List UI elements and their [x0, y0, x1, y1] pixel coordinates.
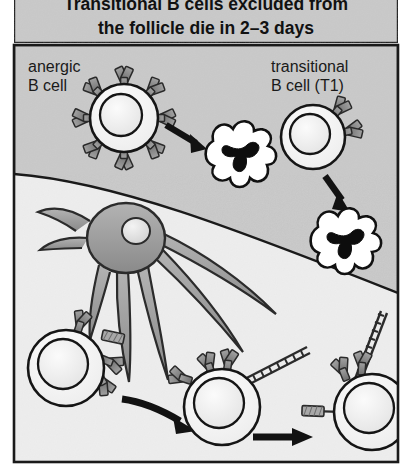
title-band: Transitional B cells excluded from the f… — [14, 0, 398, 43]
label-transitional-line-2: B cell (T1) — [271, 77, 344, 94]
label-anergic-line-2: B cell — [28, 77, 67, 94]
figure-title-line-1: Transitional B cells excluded from — [64, 0, 348, 14]
label-anergic-line-1: anergic — [28, 58, 80, 75]
b-cell-bottom-left-nucleus — [38, 339, 88, 389]
anergic-b-cell-nucleus — [100, 94, 142, 136]
antigen-icon — [302, 406, 324, 417]
diagram-canvas: Transitional B cells excluded from the f… — [0, 0, 411, 475]
transitional-b-cell-nucleus — [290, 114, 330, 154]
b-cell-bottom-right-nucleus — [344, 383, 394, 433]
figure-panel: Transitional B cells excluded from the f… — [0, 0, 411, 475]
fdc-nucleus — [122, 218, 150, 244]
apoptotic-cell-1 — [206, 121, 277, 187]
b-cell-bottom-middle-nucleus — [194, 378, 244, 428]
apoptotic-cell-2 — [311, 208, 382, 274]
label-transitional-line-1: transitional — [271, 58, 348, 75]
figure-title-line-2: the follicle die in 2–3 days — [98, 18, 314, 38]
